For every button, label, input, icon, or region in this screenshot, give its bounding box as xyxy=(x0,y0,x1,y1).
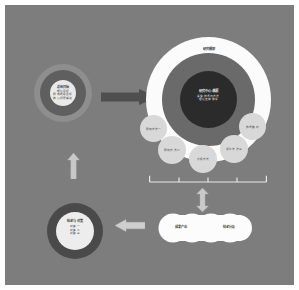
cloud-label-2: 结论分析 xyxy=(223,224,235,229)
slide-root: 总体目标 理论目标 研究的总目标 核心问题解决 研究框架 研究中心课题 关键技术… xyxy=(0,0,299,290)
slide-canvas: 总体目标 理论目标 研究的总目标 核心问题解决 研究框架 研究中心课题 关键技术… xyxy=(5,5,294,285)
arrow-up-light xyxy=(67,153,80,179)
arrow-left-light xyxy=(115,219,145,232)
satellite-label-1: 研究方法一 xyxy=(138,127,169,131)
main-core-text: 研究中心课题 关键技术与方法 理论支撑体系 xyxy=(183,89,234,102)
bottom-left-line-3: 对策三 xyxy=(56,232,94,235)
main-outer-ring-label: 研究框架 xyxy=(173,47,245,51)
main-core-title: 研究中心课题 xyxy=(183,89,234,93)
bottom-left-title: 结论与对策 xyxy=(56,220,94,224)
satellite-label-3: 分析方法 xyxy=(187,157,219,161)
satellite-label-2: 研究方法二 xyxy=(156,148,188,152)
main-core-line-2: 理论支撑体系 xyxy=(183,98,234,101)
satellite-label-4: 评价方法三 xyxy=(218,147,250,151)
cloud-label-1: 成果产出 xyxy=(175,224,187,229)
cloud-label-group: 成果产出 结论分析 xyxy=(157,224,253,229)
arrow-down-light xyxy=(196,188,209,212)
bottom-left-core-text: 结论与对策 对策一 对策二 对策三 xyxy=(56,220,94,236)
measurement-bracket xyxy=(149,175,267,184)
top-left-core-text: 总体目标 理论目标 研究的总目标 核心问题解决 xyxy=(48,86,78,100)
satellite-label-5: 技术路线 xyxy=(237,125,268,129)
top-left-line-3: 核心问题解决 xyxy=(48,97,78,100)
